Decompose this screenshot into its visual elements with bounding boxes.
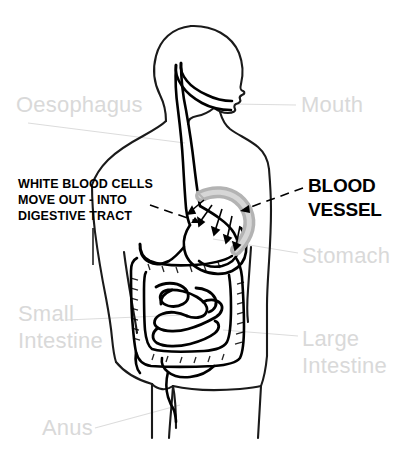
anatomy-illustration (0, 0, 418, 455)
digestive-tract (131, 63, 246, 422)
leg-left-inner (169, 386, 173, 438)
leader-lines-gray (28, 104, 298, 428)
leader-blood-vessel-dashed (245, 188, 303, 209)
leader-line-large-intestine (223, 330, 298, 336)
large-intestine-haustra (131, 262, 244, 363)
duodenum (140, 244, 184, 264)
large-intestine-inner-frame (144, 272, 231, 352)
right-arm-inner (247, 247, 251, 322)
left-arm-outline (92, 185, 112, 338)
digestive-system-diagram: Oesophagus Mouth Stomach Small Intestine… (0, 0, 418, 455)
leader-line-anus (95, 405, 180, 428)
neck-front (220, 112, 269, 169)
crotch (152, 384, 173, 389)
leg-right-outer (258, 386, 261, 438)
small-intestine-coils (153, 283, 222, 346)
left-shoulder (92, 121, 166, 185)
small-intestine-coil-3 (153, 321, 219, 346)
leader-line-mouth (233, 104, 296, 105)
right-hip-side (261, 356, 267, 386)
mouth-cavity-upper (181, 63, 232, 101)
right-arm-outline (267, 169, 271, 356)
jaw-chin-line (188, 108, 214, 124)
hip-right (173, 386, 261, 390)
anus-opening (174, 410, 176, 422)
left-torso-side (112, 338, 116, 362)
leader-line-small-intestine (66, 315, 185, 320)
